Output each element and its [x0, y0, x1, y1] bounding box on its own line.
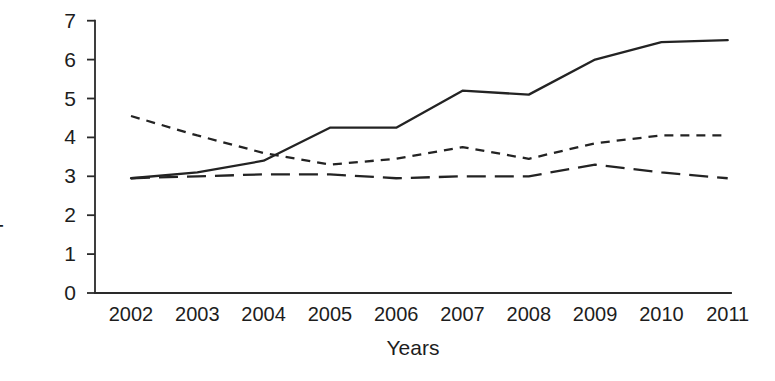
chart-figure: Impact factor 01234567 20022003200420052…	[0, 0, 775, 381]
x-tick-label-2009: 2009	[563, 304, 627, 324]
axes-group	[87, 21, 731, 293]
y-tick-label-2: 2	[50, 204, 76, 225]
x-tick-label-2010: 2010	[629, 304, 693, 324]
y-tick-label-1: 1	[50, 243, 76, 264]
y-tick-label-4: 4	[50, 126, 76, 147]
x-tick-label-2002: 2002	[99, 304, 163, 324]
y-tick-label-0: 0	[50, 282, 76, 303]
y-tick-label-7: 7	[50, 10, 76, 31]
series-group	[131, 40, 728, 178]
y-tick-label-3: 3	[50, 165, 76, 186]
x-tick-label-2007: 2007	[431, 304, 495, 324]
series-short-dashed	[131, 116, 728, 165]
x-tick-label-2003: 2003	[165, 304, 229, 324]
series-solid	[131, 40, 728, 178]
x-tick-label-2004: 2004	[232, 304, 296, 324]
x-axis-label: Years	[95, 336, 731, 360]
y-tick-label-5: 5	[50, 88, 76, 109]
series-long-dashed	[131, 165, 728, 179]
x-tick-label-2011: 2011	[696, 304, 760, 324]
x-tick-label-2005: 2005	[298, 304, 362, 324]
y-tick-label-6: 6	[50, 49, 76, 70]
x-tick-label-2008: 2008	[497, 304, 561, 324]
x-tick-label-2006: 2006	[364, 304, 428, 324]
